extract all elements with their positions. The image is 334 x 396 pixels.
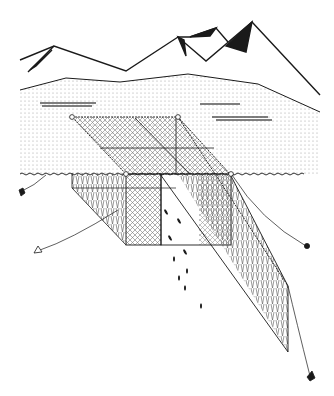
anchor-icon <box>304 243 309 248</box>
anchor-icon <box>19 188 25 196</box>
anchor-icon <box>307 371 315 381</box>
left-wall-net <box>72 173 126 245</box>
anchor-icon <box>34 246 42 253</box>
trap-net-diagram <box>0 0 334 396</box>
